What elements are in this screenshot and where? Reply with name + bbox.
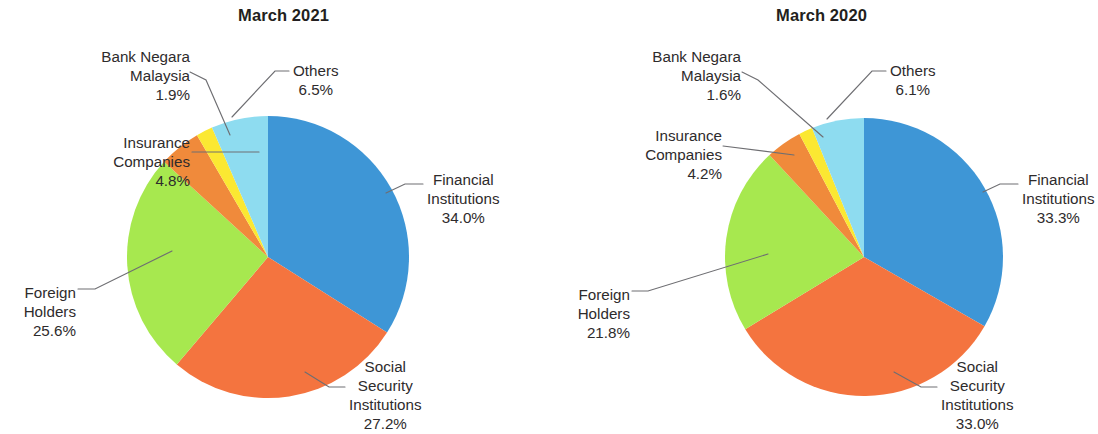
label-value: 34.0% xyxy=(427,208,500,227)
label-line-1: Bank Negara xyxy=(101,47,190,66)
label-line-1: Foreign xyxy=(24,283,76,302)
label-foreign-holders-left: Foreign Holders 25.6% xyxy=(24,283,76,340)
label-line-2: Security xyxy=(349,376,422,395)
label-value: 6.5% xyxy=(293,80,339,99)
label-line-2: Companies xyxy=(113,152,190,171)
label-line-1: Bank Negara xyxy=(652,47,741,66)
label-insurance-companies-left: Insurance Companies 4.8% xyxy=(113,133,190,190)
label-line-2: Institutions xyxy=(1022,189,1095,208)
label-line-2: Malaysia xyxy=(652,66,741,85)
label-line-2: Companies xyxy=(645,145,722,164)
pie-svg-right xyxy=(549,0,1098,434)
label-line-2: Holders xyxy=(578,304,630,323)
chart-panel-march-2021: March 2021 Bank Negara Ma xyxy=(0,0,549,434)
label-line-3: Institutions xyxy=(941,395,1014,414)
label-value: 21.8% xyxy=(578,323,630,342)
leader-line-bnm-right xyxy=(742,72,823,137)
label-line-2: Malaysia xyxy=(101,66,190,85)
label-value: 33.3% xyxy=(1022,208,1095,227)
label-line-1: Financial xyxy=(427,170,500,189)
label-line-2: Holders xyxy=(24,302,76,321)
label-social-security-institutions-right: Social Security Institutions 33.0% xyxy=(941,357,1014,434)
label-line-1: Social xyxy=(349,357,422,376)
label-value: 25.6% xyxy=(24,321,76,340)
label-line-1: Financial xyxy=(1022,170,1095,189)
label-social-security-institutions-left: Social Security Institutions 27.2% xyxy=(349,357,422,434)
label-bank-negara-malaysia-left: Bank Negara Malaysia 1.9% xyxy=(101,47,190,104)
leader-line-financial-right xyxy=(983,184,1018,192)
label-line-3: Institutions xyxy=(349,395,422,414)
label-foreign-holders-right: Foreign Holders 21.8% xyxy=(578,285,630,342)
leader-line-others-right xyxy=(827,71,886,119)
label-others-right: Others 6.1% xyxy=(890,61,936,99)
label-line-1: Insurance xyxy=(645,126,722,145)
pie-chart-figure: March 2021 Bank Negara Ma xyxy=(0,0,1098,434)
label-financial-institutions-left: Financial Institutions 34.0% xyxy=(427,170,500,227)
label-value: 1.9% xyxy=(101,85,190,104)
leader-line-others-left xyxy=(232,71,289,117)
label-line-1: Foreign xyxy=(578,285,630,304)
label-value: 4.2% xyxy=(645,164,722,183)
label-line-1: Others xyxy=(293,61,339,80)
label-value: 27.2% xyxy=(349,414,422,433)
label-others-left: Others 6.5% xyxy=(293,61,339,99)
label-value: 33.0% xyxy=(941,414,1014,433)
label-line-2: Institutions xyxy=(427,189,500,208)
label-line-2: Security xyxy=(941,376,1014,395)
label-financial-institutions-right: Financial Institutions 33.3% xyxy=(1022,170,1095,227)
label-line-1: Insurance xyxy=(113,133,190,152)
pie-slices-right xyxy=(725,118,1003,396)
label-value: 4.8% xyxy=(113,171,190,190)
label-insurance-companies-right: Insurance Companies 4.2% xyxy=(645,126,722,183)
label-line-1: Others xyxy=(890,61,936,80)
chart-panel-march-2020: March 2020 Bank Negara Malaysia xyxy=(549,0,1098,434)
label-value: 1.6% xyxy=(652,85,741,104)
label-bank-negara-malaysia-right: Bank Negara Malaysia 1.6% xyxy=(652,47,741,104)
label-line-1: Social xyxy=(941,357,1014,376)
label-value: 6.1% xyxy=(890,80,936,99)
